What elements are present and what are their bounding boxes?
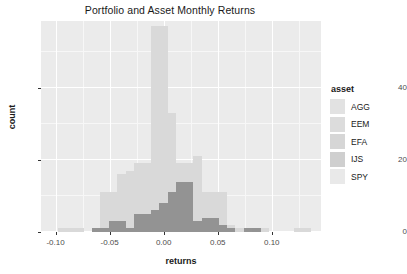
x-axis-tick-label: -0.05 xyxy=(90,238,130,247)
histogram-bar-asset xyxy=(67,228,75,232)
x-axis-tick-mark xyxy=(218,232,219,235)
legend-item[interactable]: IJS xyxy=(330,151,404,169)
histogram-bar-portfolio xyxy=(252,228,260,232)
y-axis-tick-label: 0 xyxy=(374,227,407,236)
legend: asset AGGEEMEFAIJSSPY xyxy=(330,84,404,186)
legend-items: AGGEEMEFAIJSSPY xyxy=(330,98,404,186)
legend-item-label: IJS xyxy=(351,154,363,164)
histogram-bar-portfolio xyxy=(219,225,227,232)
histogram-bar-asset xyxy=(151,26,159,232)
histogram-bar-asset xyxy=(126,171,134,232)
histogram-bar-portfolio xyxy=(244,228,252,232)
histogram-bar-portfolio xyxy=(151,210,159,232)
histogram-bar-asset xyxy=(235,228,243,232)
histogram-bar-portfolio xyxy=(134,214,142,232)
histogram-bar-portfolio xyxy=(176,182,184,233)
histogram-bar-asset xyxy=(261,228,269,232)
legend-item-label: SPY xyxy=(351,172,368,182)
y-axis-tick-mark xyxy=(38,232,41,233)
histogram-bar-portfolio xyxy=(100,228,108,232)
chart-title: Portfolio and Asset Monthly Returns xyxy=(0,4,340,16)
x-axis-tick-label: 0.05 xyxy=(198,238,238,247)
gridline-minor-vertical xyxy=(299,21,300,232)
x-axis-tick-label: 0.00 xyxy=(144,238,184,247)
gridline-major-horizontal xyxy=(41,87,321,88)
x-axis-tick-label: 0.10 xyxy=(252,238,292,247)
histogram-bar-asset xyxy=(303,228,311,232)
histogram-bar-portfolio xyxy=(193,221,201,232)
legend-item[interactable]: AGG xyxy=(330,98,404,116)
histogram-bar-asset xyxy=(159,26,167,232)
gridline-major-vertical xyxy=(56,21,57,232)
histogram-bar-portfolio xyxy=(126,228,134,232)
histogram-bar-asset xyxy=(100,192,108,232)
legend-swatch-icon xyxy=(330,152,345,167)
histogram-bar-asset xyxy=(75,228,83,232)
histogram-bar-portfolio xyxy=(185,182,193,233)
gridline-major-horizontal xyxy=(41,159,321,160)
histogram-bar-asset xyxy=(58,228,66,232)
legend-item[interactable]: EFA xyxy=(330,133,404,151)
histogram-bar-portfolio xyxy=(168,192,176,232)
legend-swatch-icon xyxy=(330,99,345,114)
chart-root: Portfolio and Asset Monthly Returns 0204… xyxy=(0,0,407,274)
histogram-bar-portfolio xyxy=(159,203,167,232)
legend-swatch-icon xyxy=(330,117,345,132)
x-axis-tick-mark xyxy=(56,232,57,235)
gridline-minor-vertical xyxy=(245,21,246,232)
gridline-major-vertical xyxy=(272,21,273,232)
histogram-bar-portfolio xyxy=(210,218,218,232)
histogram-bar-portfolio xyxy=(227,228,235,232)
histogram-bar-portfolio xyxy=(117,221,125,232)
x-axis-tick-mark xyxy=(110,232,111,235)
histogram-bar-portfolio xyxy=(143,214,151,232)
gridline-minor-vertical xyxy=(83,21,84,232)
y-axis-tick-mark xyxy=(38,88,41,89)
legend-title: asset xyxy=(330,84,404,94)
histogram-bar-portfolio xyxy=(202,218,210,232)
legend-item-label: EFA xyxy=(351,137,367,147)
histogram-bar-asset xyxy=(294,228,302,232)
gridline-minor-horizontal xyxy=(41,123,321,124)
y-axis-tick-mark xyxy=(38,160,41,161)
legend-item-label: EEM xyxy=(351,119,369,129)
x-axis-tick-label: -0.10 xyxy=(36,238,76,247)
x-axis-tick-mark xyxy=(164,232,165,235)
plot-panel xyxy=(41,21,321,232)
legend-item[interactable]: SPY xyxy=(330,168,404,186)
legend-swatch-icon xyxy=(330,169,345,184)
histogram-bar-portfolio xyxy=(109,221,117,232)
gridline-minor-horizontal xyxy=(41,51,321,52)
histogram-bar-portfolio xyxy=(92,228,100,232)
legend-item[interactable]: EEM xyxy=(330,116,404,134)
legend-swatch-icon xyxy=(330,134,345,149)
legend-item-label: AGG xyxy=(351,102,370,112)
x-axis-title: returns xyxy=(41,256,321,266)
x-axis-tick-mark xyxy=(272,232,273,235)
y-axis-title: count xyxy=(7,87,17,147)
